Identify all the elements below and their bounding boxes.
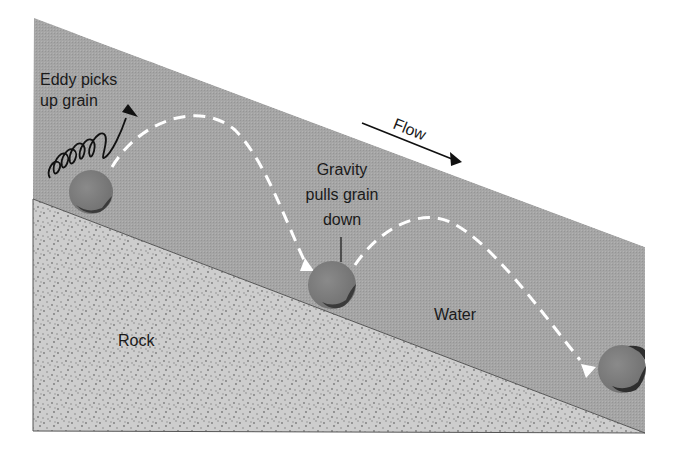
gravity-label-line2: pulls grain: [306, 186, 379, 203]
gravity-label-line3: down: [323, 211, 361, 228]
eddy-label-line2: up grain: [40, 92, 98, 109]
grain-1: [69, 170, 113, 214]
rock-label: Rock: [118, 332, 155, 349]
grain-3: [598, 345, 646, 393]
gravity-label-line1: Gravity: [317, 161, 368, 178]
water-label: Water: [434, 306, 477, 323]
grain-2: [308, 261, 356, 309]
saltation-diagram: Eddy picks up grain Flow Gravity pulls g…: [0, 0, 680, 452]
eddy-label-line1: Eddy picks: [40, 71, 117, 88]
